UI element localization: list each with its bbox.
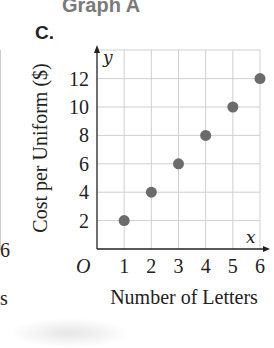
data-point [200, 130, 211, 141]
x-axis-arrow-icon [263, 246, 270, 252]
y-tick-label: 6 [79, 153, 89, 175]
y-tick-label: 10 [69, 96, 89, 118]
y-tick-label: 4 [79, 181, 89, 203]
data-point [119, 215, 130, 226]
y-tick-label: 8 [79, 124, 89, 146]
origin-label: O [76, 255, 90, 277]
x-tick-label: 3 [174, 255, 184, 277]
data-point [146, 187, 157, 198]
data-point [227, 102, 238, 113]
x-tick-label: 2 [146, 255, 156, 277]
y-axis-symbol: y [102, 47, 113, 67]
x-tick-label: 4 [201, 255, 211, 277]
x-tick-label: 1 [119, 255, 129, 277]
data-point [173, 158, 184, 169]
y-tick-label: 12 [69, 68, 89, 90]
y-tick-label: 2 [79, 210, 89, 232]
x-tick-label: 5 [228, 255, 238, 277]
data-point [255, 73, 266, 84]
x-tick-label: 6 [255, 255, 265, 277]
x-axis-symbol: x [246, 227, 256, 247]
y-axis-arrow-icon [94, 45, 100, 53]
